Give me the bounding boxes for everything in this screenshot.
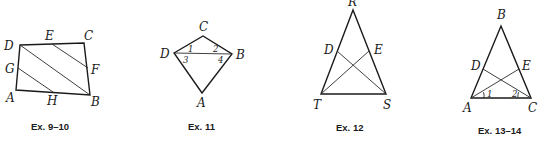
- angle-arc-2: [518, 92, 519, 98]
- label-A: A: [462, 101, 472, 115]
- angle-2: 2: [212, 44, 218, 54]
- segment-EF: [52, 44, 88, 68]
- label-D: D: [323, 43, 334, 57]
- label-C: C: [84, 29, 93, 43]
- label-C: C: [528, 101, 537, 115]
- angle-3: 3: [183, 55, 188, 65]
- label-C: C: [199, 20, 208, 34]
- label-D: D: [3, 39, 14, 53]
- angle-1: 1: [188, 44, 193, 54]
- label-E: E: [373, 43, 383, 57]
- geometry-figures: D E C G F A H B Ex. 9–10 C D B A 1 2 3 4…: [0, 0, 544, 143]
- angle-4: 4: [217, 55, 223, 65]
- label-S: S: [383, 98, 391, 112]
- caption-ex-12: Ex. 12: [336, 122, 363, 133]
- label-T: T: [313, 98, 322, 112]
- label-E: E: [521, 59, 531, 73]
- segment-GH: [18, 68, 53, 92]
- figure-ex-12: R D E T S Ex. 12: [313, 0, 391, 133]
- label-D: D: [159, 47, 170, 61]
- label-D: D: [470, 59, 481, 73]
- label-G: G: [5, 62, 15, 76]
- label-H: H: [46, 94, 58, 108]
- figure-ex-9-10: D E C G F A H B Ex. 9–10: [3, 29, 100, 132]
- angle-arc-1: [484, 92, 485, 98]
- label-B: B: [235, 48, 245, 62]
- label-R: R: [347, 0, 357, 9]
- label-E: E: [44, 29, 54, 43]
- label-A: A: [196, 96, 206, 110]
- label-F: F: [90, 63, 100, 77]
- label-B: B: [90, 95, 100, 109]
- caption-ex-11: Ex. 11: [188, 121, 216, 132]
- label-A: A: [5, 91, 15, 105]
- diagonal-DB: [20, 45, 90, 95]
- label-B: B: [496, 8, 506, 22]
- caption-ex-13-14: Ex. 13–14: [478, 125, 522, 136]
- figure-ex-13-14: B D E A C 1 2 Ex. 13–14: [462, 8, 537, 136]
- diagonal-DB: [174, 53, 232, 54]
- figure-ex-11: C D B A 1 2 3 4 Ex. 11: [159, 20, 245, 132]
- caption-ex-9-10: Ex. 9–10: [31, 121, 69, 132]
- angle-2: 2: [511, 89, 517, 99]
- angle-1: 1: [487, 89, 492, 99]
